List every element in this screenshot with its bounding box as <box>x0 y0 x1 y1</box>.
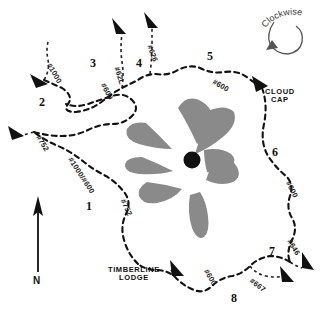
segment-number: 5 <box>207 50 213 62</box>
segment-number: 4 <box>136 57 142 69</box>
segment-number: 1 <box>86 200 92 212</box>
summit-dot <box>184 152 201 169</box>
place-label-cloud-cap: CLOUD CAP <box>265 88 295 103</box>
clockwise-arrow-icon <box>266 22 302 54</box>
timberline-lodge-line2: LODGE <box>108 274 160 282</box>
segment-number: 2 <box>39 96 45 108</box>
cloud-cap-line2: CAP <box>265 96 295 104</box>
clockwise-label: Clockwise <box>259 7 316 30</box>
timberline-trail-loop <box>34 66 295 291</box>
segment-number: 8 <box>231 292 237 304</box>
compass-north-label: N <box>33 276 40 286</box>
mount-hood-trail-map: Clockwise 1 2 3 4 5 6 7 8 #1000 #600 #62… <box>0 0 330 311</box>
segment-number: 3 <box>90 57 96 69</box>
segment-number: 7 <box>269 245 275 257</box>
map-graphics: Clockwise <box>0 0 330 311</box>
glacier-shapes <box>125 99 239 238</box>
place-label-timberline-lodge: TIMBERLINE LODGE <box>108 266 160 281</box>
segment-number: 6 <box>272 146 278 158</box>
spur-trails <box>20 26 302 278</box>
north-arrow-icon <box>33 196 43 272</box>
